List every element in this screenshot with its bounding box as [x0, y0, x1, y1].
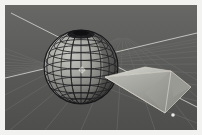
shading-mode-label: Solid — [0, 0, 1, 1]
sphere-object-label: uv-sphere — [0, 0, 1, 1]
view-mode-label: Perspective — [0, 0, 1, 1]
screenshot-root: 3D Viewport Perspective Solid uv-sphere … — [0, 0, 202, 135]
cone-object-label: cone-object — [0, 0, 1, 1]
3d-viewport[interactable] — [5, 5, 197, 130]
viewport-frame — [5, 5, 197, 130]
viewport-title: 3D Viewport — [0, 0, 1, 1]
object-origin-dot[interactable] — [171, 113, 175, 117]
sphere-pole-cap-inner — [73, 31, 89, 36]
